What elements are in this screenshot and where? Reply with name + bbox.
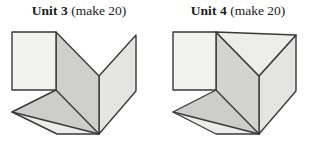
unit-3-caption: Unit 3 (make 20) [0,2,158,19]
unit-3-title: Unit 3 [32,3,68,18]
unit-3-subtitle: (make 20) [71,3,126,18]
unit-3-diagram [0,21,158,141]
unit-4-subtitle: (make 20) [230,3,285,18]
unit-4-figure-block: Unit 4 (make 20) [159,0,317,156]
unit-4-caption: Unit 4 (make 20) [159,2,317,19]
unit-4-diagram [159,21,317,141]
unit-4-title: Unit 4 [191,3,227,18]
unit-4-face-front-square [173,32,216,90]
unit-3-face-front-square [12,32,56,90]
unit-3-figure-block: Unit 3 (make 20) [0,0,158,156]
unit-3-face-right-wing-panel [99,35,136,134]
worksheet-page: Unit 3 (make 20) [0,0,317,156]
